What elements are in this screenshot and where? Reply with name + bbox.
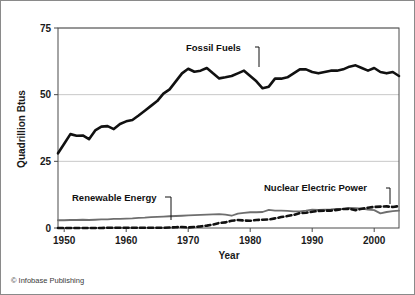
annotation-leader-line [255, 47, 259, 67]
x-tick-label: 1990 [301, 235, 324, 246]
energy-consumption-line-chart: 0255075 195019601970198019902000 Fossil … [1, 1, 415, 295]
x-tick-label: 2000 [363, 235, 386, 246]
annotation-label-nuclear-electric-power: Nuclear Electric Power [264, 182, 367, 193]
x-tick-label: 1950 [53, 235, 76, 246]
x-tick-label: 1960 [115, 235, 138, 246]
annotation-leader-line [386, 188, 390, 204]
y-tick-label: 75 [40, 23, 52, 34]
y-tick-label: 25 [40, 156, 52, 167]
x-tick-label: 1970 [177, 235, 200, 246]
x-tick-label: 1980 [239, 235, 262, 246]
annotation-label-fossil-fuels: Fossil Fuels [186, 42, 241, 53]
x-axis-title: Year [218, 250, 239, 261]
annotation-label-renewable-energy: Renewable Energy [72, 192, 157, 203]
y-axis-ticks: 0255075 [40, 23, 58, 234]
x-axis-ticks: 195019601970198019902000 [53, 228, 386, 246]
series-line-fossil-fuels [58, 65, 399, 153]
y-tick-label: 50 [40, 89, 52, 100]
y-tick-label: 0 [45, 223, 51, 234]
y-axis-title: Quadrillion Btus [16, 90, 27, 168]
series-line-nuclear-electric-power [58, 206, 399, 228]
data-series [58, 65, 399, 228]
chart-figure: 0255075 195019601970198019902000 Fossil … [0, 0, 415, 295]
publisher-credit: © Infobase Publishing [11, 276, 84, 285]
